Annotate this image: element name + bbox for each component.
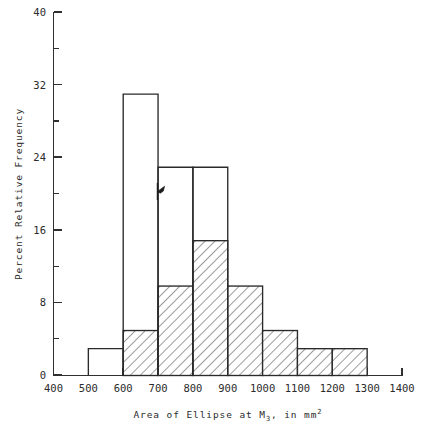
hatched-bar <box>332 349 367 376</box>
y-tick-label: 32 <box>33 79 46 91</box>
hatched-bar <box>297 349 332 376</box>
x-axis-title-superscript: 2 <box>317 408 322 416</box>
x-tick-label: 400 <box>44 382 63 394</box>
x-tick-label: 900 <box>218 382 237 394</box>
hatched-bar <box>228 286 263 375</box>
x-tick-label: 1000 <box>250 382 275 394</box>
hatched-bar <box>123 331 158 376</box>
y-axis-title: Percent Relative Frequency <box>13 108 24 280</box>
x-axis-title-main: Area of Ellipse at M <box>134 409 266 420</box>
histogram-svg: 40 32 24 16 8 0 Percent Relative Frequen… <box>0 0 427 433</box>
x-tick-label: 600 <box>114 382 133 394</box>
x-tick-label: 1100 <box>285 382 310 394</box>
x-tick-label: 800 <box>183 382 202 394</box>
x-axis-title-mid: , in mm <box>271 409 317 420</box>
histogram-figure: 40 32 24 16 8 0 Percent Relative Frequen… <box>0 0 427 433</box>
x-tick-label: 1200 <box>320 382 345 394</box>
y-tick-label: 8 <box>40 296 46 308</box>
y-axis-title-group: Percent Relative Frequency <box>13 108 24 280</box>
hatched-bar <box>263 331 298 376</box>
x-tick-label: 700 <box>149 382 168 394</box>
x-tick-label: 1300 <box>355 382 380 394</box>
y-tick-label: 16 <box>33 224 46 236</box>
x-tick-label: 500 <box>79 382 98 394</box>
hatched-bar <box>193 241 228 376</box>
x-tick-label: 1400 <box>389 382 414 394</box>
y-tick-label: 0 <box>40 369 46 381</box>
y-tick-label: 40 <box>33 6 46 18</box>
hatched-bar <box>158 286 193 375</box>
y-tick-label: 24 <box>33 151 46 163</box>
